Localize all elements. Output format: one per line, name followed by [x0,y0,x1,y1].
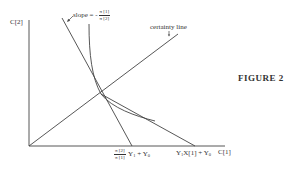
x-axis-label: C[1] [218,149,231,156]
x-intercept-1-label: π [2]π [1] Y1 + Y0 [113,148,150,160]
indifference-curve [89,24,155,121]
certainty-line [29,34,178,146]
certainty-arrow-head-icon [168,35,170,37]
y-axis-label: C[2] [10,19,23,26]
plus-sign: + [135,150,142,158]
slope-denominator: π [2] [99,16,111,22]
y0-subscript: 0 [209,152,211,157]
x-intercept-2-label: Y1X[1] + Y0 [176,150,211,158]
slope-line [62,18,132,146]
certainty-line-label: certainty line [150,24,187,31]
price-ratio-denominator: π [1] [114,155,126,161]
price-ratio-fraction: π [2]π [1] [114,148,126,160]
figure-diagram [0,0,297,172]
budget-line [101,94,195,146]
slope-fraction: π [1]π [2] [99,9,111,21]
slope-annotation: slope = -π [1]π [2] [73,9,111,21]
slope-prefix: slope = - [73,11,98,19]
figure-caption: FIGURE 2 [238,73,284,83]
x1-plus: X[1] + [183,149,203,157]
y0-subscript: 0 [148,153,150,158]
